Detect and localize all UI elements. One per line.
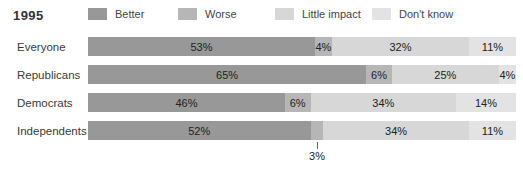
bar-segment-worse [311,121,324,140]
legend-label: Little impact [302,8,361,20]
category-label: Republicans [17,69,80,81]
segment-value-label: 11% [482,125,503,137]
bar-segment-little-impact: 34% [323,121,469,140]
segment-value-label: 52% [188,125,210,137]
chart-rows: Everyone53%4%32%11%Republicans65%6%25%4%… [0,37,523,149]
legend-item-little-impact: Little impact [275,8,361,20]
segment-value-label: 14% [475,97,497,109]
segment-value-label: 32% [389,41,411,53]
legend-label: Don't know [399,8,453,20]
segment-value-label: 53% [190,41,212,53]
chart-row-independents: Independents52%34%11%3% [0,121,523,140]
bar-segment-don-t-know: 11% [469,121,516,140]
bar-segment-little-impact: 32% [332,37,469,56]
bar-segment-worse: 4% [315,37,332,56]
legend-item-don-t-know: Don't know [372,8,453,20]
segment-value-label: 46% [175,97,197,109]
bar-segment-better: 53% [88,37,315,56]
legend-swatch-icon [275,8,294,20]
bar-segment-worse: 6% [366,65,392,84]
legend-label: Worse [205,8,237,20]
stacked-bar: 52%34%11%3% [88,121,516,140]
bar-segment-little-impact: 34% [311,93,457,112]
chart-row-democrats: Democrats46%6%34%14% [0,93,523,112]
category-label: Independents [17,125,87,137]
legend-item-better: Better [88,8,144,20]
segment-value-label: 25% [434,69,456,81]
segment-value-label: 6% [290,97,306,109]
chart-row-everyone: Everyone53%4%32%11% [0,37,523,56]
legend-item-worse: Worse [178,8,237,20]
category-label: Everyone [17,41,66,53]
segment-value-label: 34% [385,125,407,137]
bar-segment-don-t-know: 11% [469,37,516,56]
segment-value-label: 11% [482,41,503,53]
chart-row-republicans: Republicans65%6%25%4% [0,65,523,84]
legend-swatch-icon [88,8,107,20]
segment-value-label: 34% [372,97,394,109]
bar-segment-worse: 6% [285,93,311,112]
stacked-bar-chart: 1995 BetterWorseLittle impactDon't know … [0,0,523,181]
segment-value-label: 4% [315,41,331,53]
legend-swatch-icon [372,8,391,20]
bar-segment-don-t-know: 14% [456,93,516,112]
segment-value-label: 6% [371,69,387,81]
stacked-bar: 53%4%32%11% [88,37,516,56]
segment-value-label: 65% [216,69,238,81]
bar-segment-better: 52% [88,121,311,140]
chart-header: 1995 BetterWorseLittle impactDon't know [0,8,523,24]
stacked-bar: 46%6%34%14% [88,93,516,112]
legend-swatch-icon [178,8,197,20]
legend-label: Better [115,8,144,20]
category-label: Democrats [17,97,73,109]
bar-segment-little-impact: 25% [392,65,499,84]
bar-segment-better: 46% [88,93,285,112]
segment-value-label: 4% [499,69,515,81]
legend: BetterWorseLittle impactDon't know [0,8,523,24]
callout-tick [317,142,318,149]
bar-segment-better: 65% [88,65,366,84]
bar-segment-don-t-know: 4% [499,65,516,84]
stacked-bar: 65%6%25%4% [88,65,516,84]
callout-value-label: 3% [309,150,325,162]
